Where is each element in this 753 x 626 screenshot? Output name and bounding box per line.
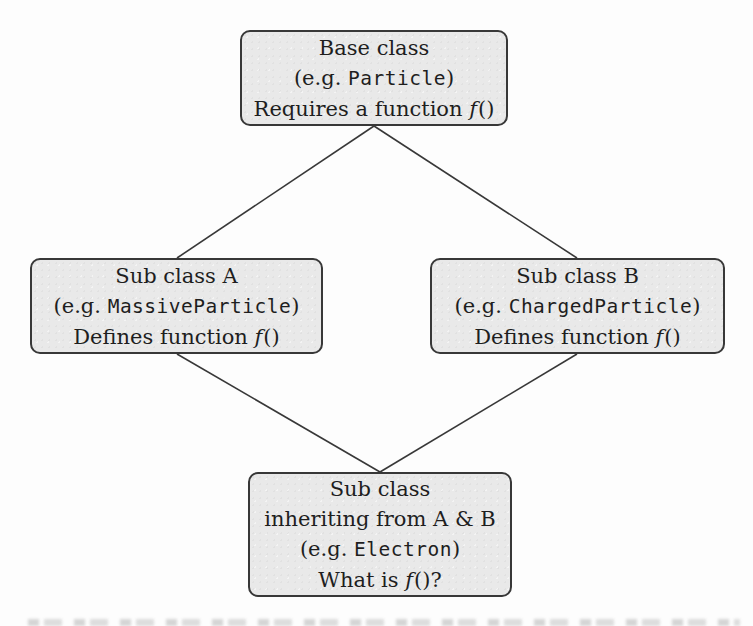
node-sub-a-note: Defines function f() [40,322,313,352]
edge-sub-a-to-sub-ab [177,354,380,472]
node-sub-b-note: Defines function f() [440,322,715,352]
inheritance-diagram: Base class (e.g. Particle) Requires a fu… [0,0,753,626]
node-sub-b-example: (e.g. ChargedParticle) [440,291,715,322]
node-sub-ab-title2: inheriting from A & B [258,504,502,534]
node-base-title: Base class [250,33,498,63]
edge-base-to-sub-b [374,126,577,258]
node-sub-a-title: Sub class A [40,261,313,291]
node-base-class: Base class (e.g. Particle) Requires a fu… [240,30,508,126]
node-sub-class-a: Sub class A (e.g. MassiveParticle) Defin… [30,258,323,354]
node-sub-class-a-and-b: Sub class inheriting from A & B (e.g. El… [248,472,512,597]
edge-base-to-sub-a [177,126,374,258]
node-base-example: (e.g. Particle) [250,63,498,94]
edge-sub-b-to-sub-ab [380,354,577,472]
node-sub-class-b: Sub class B (e.g. ChargedParticle) Defin… [430,258,725,354]
node-sub-ab-title: Sub class [258,474,502,504]
cropped-caption-fragment [28,619,740,626]
math-f: f [469,97,478,121]
math-f: f [656,325,665,349]
math-f: f [255,325,264,349]
code-charged-particle: ChargedParticle [509,295,693,318]
node-sub-ab-note: What is f()? [258,565,502,595]
code-electron: Electron [354,538,452,561]
node-sub-b-title: Sub class B [440,261,715,291]
node-base-note: Requires a function f() [250,94,498,124]
node-sub-a-example: (e.g. MassiveParticle) [40,291,313,322]
node-sub-ab-example: (e.g. Electron) [258,534,502,565]
code-massive-particle: MassiveParticle [108,295,292,318]
math-f: f [405,568,414,592]
code-particle: Particle [348,67,446,90]
